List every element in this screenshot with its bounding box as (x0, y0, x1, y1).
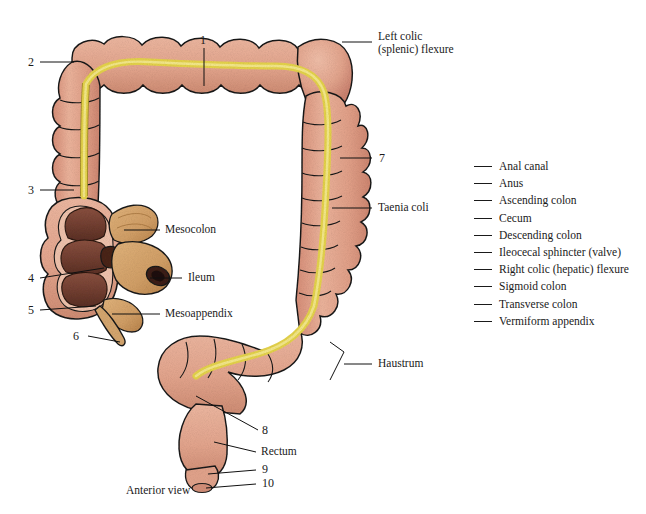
callout-number-4: 4 (28, 271, 34, 286)
callout-number-5: 5 (28, 303, 34, 318)
word-bank: Anal canal Anus Ascending colon Cecum De… (474, 160, 644, 332)
callout-number-9: 9 (262, 462, 268, 477)
callout-number-6: 6 (73, 329, 79, 344)
word-bank-term: Anus (499, 177, 523, 190)
blank-line-icon[interactable] (474, 200, 492, 201)
label-ileum: Ileum (188, 271, 215, 284)
word-bank-item[interactable]: Anal canal (474, 160, 644, 173)
word-bank-item[interactable]: Anus (474, 177, 644, 190)
label-haustrum: Haustrum (378, 357, 423, 370)
word-bank-item[interactable]: Ascending colon (474, 194, 644, 207)
callout-number-1: 1 (200, 33, 206, 48)
word-bank-term: Cecum (499, 212, 532, 225)
blank-line-icon[interactable] (474, 269, 492, 270)
figure-caption: Anterior view (126, 484, 190, 496)
blank-line-icon[interactable] (474, 252, 492, 253)
word-bank-term: Sigmoid colon (499, 280, 566, 293)
word-bank-term: Ascending colon (499, 194, 577, 207)
callout-number-2: 2 (28, 55, 34, 70)
blank-line-icon[interactable] (474, 166, 492, 167)
word-bank-item[interactable]: Transverse colon (474, 298, 644, 311)
word-bank-item[interactable]: Right colic (hepatic) flexure (474, 263, 644, 276)
word-bank-term: Transverse colon (499, 298, 577, 311)
large-intestine-figure: Left colic(splenic) flexure Taenia coli … (0, 0, 646, 514)
word-bank-item[interactable]: Cecum (474, 212, 644, 225)
callout-number-8: 8 (262, 423, 268, 438)
word-bank-term: Right colic (hepatic) flexure (499, 263, 629, 276)
colon-body (41, 37, 371, 493)
word-bank-item[interactable]: Sigmoid colon (474, 280, 644, 293)
label-left-colic-flexure-line2: (splenic) flexure (378, 43, 454, 55)
word-bank-term: Ileocecal sphincter (valve) (499, 246, 621, 259)
label-left-colic-flexure-line1: Left colic (378, 30, 422, 42)
blank-line-icon[interactable] (474, 218, 492, 219)
blank-line-icon[interactable] (474, 235, 492, 236)
word-bank-item[interactable]: Vermiform appendix (474, 315, 644, 328)
rectum-segment (179, 404, 227, 478)
blank-line-icon[interactable] (474, 304, 492, 305)
word-bank-term: Anal canal (499, 160, 549, 173)
label-mesocolon: Mesocolon (165, 223, 216, 236)
label-rectum: Rectum (261, 445, 297, 458)
blank-line-icon[interactable] (474, 321, 492, 322)
word-bank-term: Descending colon (499, 229, 582, 242)
label-mesoappendix: Mesoappendix (165, 307, 233, 320)
word-bank-item[interactable]: Ileocecal sphincter (valve) (474, 246, 644, 259)
descending-colon-segment (296, 92, 371, 335)
label-taenia-coli: Taenia coli (378, 201, 429, 214)
word-bank-term: Vermiform appendix (499, 315, 595, 328)
blank-line-icon[interactable] (474, 183, 492, 184)
label-left-colic-flexure: Left colic(splenic) flexure (378, 30, 454, 56)
word-bank-item[interactable]: Descending colon (474, 229, 644, 242)
blank-line-icon[interactable] (474, 286, 492, 287)
haustrum-bracket (330, 342, 344, 380)
callout-number-10: 10 (262, 476, 274, 491)
callout-number-3: 3 (28, 183, 34, 198)
callout-number-7: 7 (379, 151, 385, 166)
